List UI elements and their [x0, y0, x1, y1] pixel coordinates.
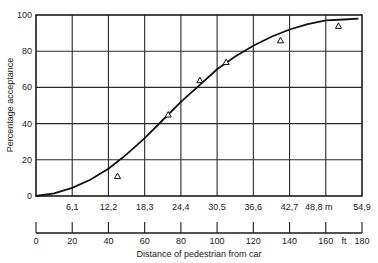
metric-tick-label: 48,8 m [305, 202, 333, 212]
y-tick-label: 100 [17, 10, 32, 20]
metric-tick-label: 30,5 [208, 202, 226, 212]
acceptance-chart: 020406080100 Percentage acceptance 6,112… [0, 0, 378, 263]
triangle-data-point [197, 77, 203, 83]
y-tick-label: 0 [27, 191, 32, 201]
feet-tick-label: 0 [33, 236, 38, 246]
y-tick-label: 80 [22, 46, 32, 56]
observed-data-markers [115, 23, 342, 179]
metric-tick-label: 6,1 [66, 202, 79, 212]
feet-tick-label: 40 [103, 236, 113, 246]
x-axis-feet-scale: 020406080100120140160ft180 [33, 222, 369, 246]
metric-tick-label: 18,3 [136, 202, 154, 212]
metric-tick-label: 36,6 [245, 202, 263, 212]
metric-tick-label: 24,4 [172, 202, 190, 212]
feet-unit-label: ft [341, 236, 347, 246]
metric-tick-label: 54,9 [353, 202, 371, 212]
x-axis-title: Distance of pedestrian from car [136, 249, 261, 259]
y-tick-label: 60 [22, 82, 32, 92]
triangle-data-point [115, 173, 121, 179]
grid-lines [36, 15, 362, 196]
feet-tick-label: 140 [282, 236, 297, 246]
feet-tick-label: 160 [318, 236, 333, 246]
metric-tick-label: 12,2 [100, 202, 118, 212]
feet-tick-label: 20 [67, 236, 77, 246]
plot-area-border [36, 15, 362, 196]
triangle-data-point [335, 23, 341, 29]
feet-tick-label: 60 [140, 236, 150, 246]
y-axis-title: Percentage acceptance [5, 58, 15, 153]
metric-tick-label: 42,7 [281, 202, 299, 212]
x-axis-metric-tick-labels: 6,112,218,324,430,536,642,748,8 m54,9 [66, 202, 371, 212]
y-tick-label: 20 [22, 155, 32, 165]
feet-tick-label: 180 [354, 236, 369, 246]
feet-tick-label: 120 [246, 236, 261, 246]
triangle-data-point [278, 37, 284, 43]
feet-tick-label: 80 [176, 236, 186, 246]
fitted-curve [36, 19, 358, 196]
y-tick-label: 40 [22, 119, 32, 129]
y-axis-tick-labels: 020406080100 [17, 10, 32, 201]
feet-tick-label: 100 [210, 236, 225, 246]
